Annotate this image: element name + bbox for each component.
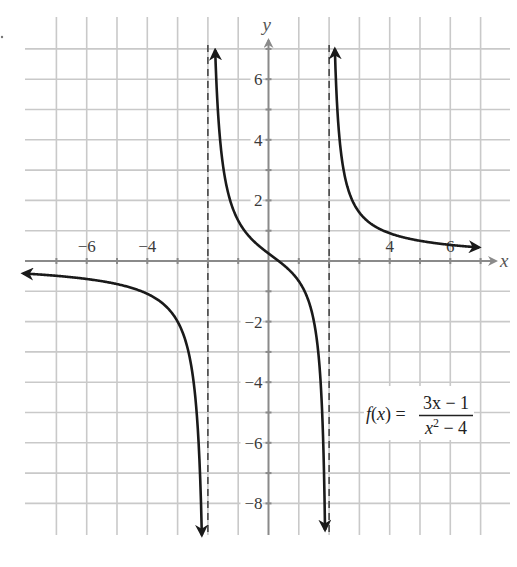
y-tick-label: 6	[254, 70, 263, 89]
y-axis-label: y	[261, 14, 272, 35]
x-tick-label: −4	[138, 237, 157, 256]
y-tick-label: −2	[244, 313, 262, 332]
y-tick-label: −6	[244, 434, 262, 453]
formula-numerator: 3x − 1	[423, 393, 469, 413]
y-tick-label: 4	[254, 131, 263, 150]
curve-branch-left	[23, 273, 202, 535]
formula-denominator: x2 − 4	[424, 416, 467, 438]
formula-lhs: f(x) =	[366, 404, 406, 425]
rational-function-graph: x y −6−446642−2−4−6−8 f(x) = 3x − 1 x2 −…	[0, 0, 517, 567]
y-tick-label: −8	[244, 494, 262, 513]
y-tick-label: −4	[244, 373, 263, 392]
x-tick-label: 4	[385, 237, 394, 256]
y-tick-label: 2	[254, 191, 263, 210]
x-axis-label: x	[499, 250, 509, 271]
curve-branch-middle	[215, 50, 325, 530]
x-tick-label: −6	[78, 237, 96, 256]
stray-mark	[1, 36, 3, 38]
function-formula: f(x) = 3x − 1 x2 − 4	[364, 386, 474, 440]
